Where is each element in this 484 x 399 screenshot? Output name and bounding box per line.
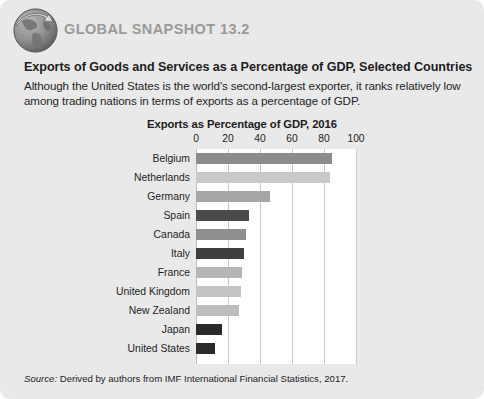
source-label: Source: bbox=[24, 373, 57, 384]
x-tick-40: 40 bbox=[254, 133, 265, 144]
category-label-netherlands: Netherlands bbox=[0, 172, 190, 183]
chart-title: Exports as Percentage of GDP, 2016 bbox=[0, 118, 484, 130]
category-label-belgium: Belgium bbox=[0, 153, 190, 164]
bar-spain bbox=[196, 210, 249, 221]
bar-row: France bbox=[0, 263, 484, 282]
category-label-italy: Italy bbox=[0, 248, 190, 259]
category-label-japan: Japan bbox=[0, 324, 190, 335]
bar-germany bbox=[196, 191, 270, 202]
category-label-canada: Canada bbox=[0, 229, 190, 240]
bar-row: United Kingdom bbox=[0, 282, 484, 301]
bar-row: Italy bbox=[0, 244, 484, 263]
bar-row: Spain bbox=[0, 206, 484, 225]
category-label-new-zealand: New Zealand bbox=[0, 305, 190, 316]
bar-chart: Exports as Percentage of GDP, 2016 02040… bbox=[0, 118, 484, 358]
description-text: Although the United States is the world'… bbox=[24, 79, 468, 108]
bar-row: Canada bbox=[0, 225, 484, 244]
bar-new-zealand bbox=[196, 305, 239, 316]
category-label-spain: Spain bbox=[0, 210, 190, 221]
bar-france bbox=[196, 267, 242, 278]
x-tick-80: 80 bbox=[318, 133, 329, 144]
bar-united-states bbox=[196, 343, 215, 354]
source-note: Source: Derived by authors from IMF Inte… bbox=[24, 373, 348, 384]
bar-row: New Zealand bbox=[0, 301, 484, 320]
category-label-germany: Germany bbox=[0, 191, 190, 202]
globe-arrow-icon bbox=[13, 8, 58, 53]
bar-japan bbox=[196, 324, 222, 335]
bar-netherlands bbox=[196, 172, 330, 183]
x-tick-60: 60 bbox=[286, 133, 297, 144]
x-tick-100: 100 bbox=[347, 133, 364, 144]
page-title: Exports of Goods and Services as a Perce… bbox=[24, 60, 462, 74]
card-header: GLOBAL SNAPSHOT 13.2 bbox=[0, 0, 484, 58]
x-tick-0: 0 bbox=[193, 133, 199, 144]
bar-row: United States bbox=[0, 339, 484, 358]
bar-row: Netherlands bbox=[0, 168, 484, 187]
bar-row: Japan bbox=[0, 320, 484, 339]
category-label-united-states: United States bbox=[0, 343, 190, 354]
bar-row: Germany bbox=[0, 187, 484, 206]
category-label-united-kingdom: United Kingdom bbox=[0, 286, 190, 297]
x-tick-20: 20 bbox=[222, 133, 233, 144]
global-snapshot-card: GLOBAL SNAPSHOT 13.2 Exports of Goods an… bbox=[0, 0, 484, 399]
bar-canada bbox=[196, 229, 246, 240]
bar-united-kingdom bbox=[196, 286, 241, 297]
bar-row: Belgium bbox=[0, 149, 484, 168]
source-text: Derived by authors from IMF Internationa… bbox=[57, 373, 348, 384]
snapshot-title: GLOBAL SNAPSHOT 13.2 bbox=[64, 21, 250, 37]
bar-italy bbox=[196, 248, 244, 259]
bar-belgium bbox=[196, 153, 332, 164]
category-label-france: France bbox=[0, 267, 190, 278]
